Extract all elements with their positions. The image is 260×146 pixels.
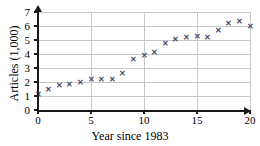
- data-point-marker: ✕: [45, 86, 52, 93]
- data-point-marker: ✕: [119, 70, 126, 77]
- data-point-marker: ✕: [204, 34, 211, 41]
- x-axis-tick-label: 20: [242, 115, 258, 126]
- plot-area: ✕✕✕✕✕✕✕✕✕✕✕✕✕✕✕✕✕✕✕✕✕: [38, 12, 250, 110]
- data-point-marker: ✕: [130, 56, 137, 63]
- x-axis-title: Year since 1983: [0, 129, 260, 144]
- y-axis-tick-mark: [34, 95, 38, 96]
- x-axis-tick-label: 0: [30, 115, 46, 126]
- data-point-marker: ✕: [162, 40, 169, 47]
- y-axis-tick-label: 2: [16, 77, 30, 88]
- data-point-marker: ✕: [215, 27, 222, 34]
- data-point-marker: ✕: [98, 76, 105, 83]
- y-axis-tick-label: 7: [16, 7, 30, 18]
- y-axis-tick-mark: [34, 11, 38, 12]
- y-axis-tick-label: 3: [16, 63, 30, 74]
- y-axis-tick-label: 5: [16, 35, 30, 46]
- data-point-marker: ✕: [88, 76, 95, 83]
- gridline-vertical: [197, 12, 198, 110]
- data-point-marker: ✕: [109, 76, 116, 83]
- gridline-vertical: [144, 12, 145, 110]
- y-axis-tick-mark: [34, 39, 38, 40]
- data-point-marker: ✕: [77, 79, 84, 86]
- data-point-marker: ✕: [183, 34, 190, 41]
- data-point-marker: ✕: [151, 49, 158, 56]
- y-axis-tick-mark: [34, 25, 38, 26]
- gridline-vertical: [91, 12, 92, 110]
- x-axis-tick-label: 5: [83, 115, 99, 126]
- y-axis-tick-label: 1: [16, 91, 30, 102]
- y-axis-tick-label: 0: [16, 105, 30, 116]
- data-point-marker: ✕: [56, 82, 63, 89]
- x-axis-tick-label: 10: [136, 115, 152, 126]
- data-point-marker: ✕: [141, 52, 148, 59]
- x-axis-tick-label: 15: [189, 115, 205, 126]
- data-point-marker: ✕: [225, 20, 232, 27]
- y-axis-tick-mark: [34, 53, 38, 54]
- data-point-marker: ✕: [66, 81, 73, 88]
- data-point-marker: ✕: [194, 33, 201, 40]
- scatter-plot-figure: ✕✕✕✕✕✕✕✕✕✕✕✕✕✕✕✕✕✕✕✕✕ Year since 1983 Ar…: [0, 0, 260, 146]
- x-axis-line: [37, 110, 245, 112]
- y-axis-tick-mark: [34, 67, 38, 68]
- data-point-marker: ✕: [247, 23, 254, 30]
- y-axis-tick-label: 4: [16, 49, 30, 60]
- y-axis-tick-mark: [34, 81, 38, 82]
- y-axis-tick-label: 6: [16, 21, 30, 32]
- data-point-marker: ✕: [236, 18, 243, 25]
- data-point-marker: ✕: [172, 36, 179, 43]
